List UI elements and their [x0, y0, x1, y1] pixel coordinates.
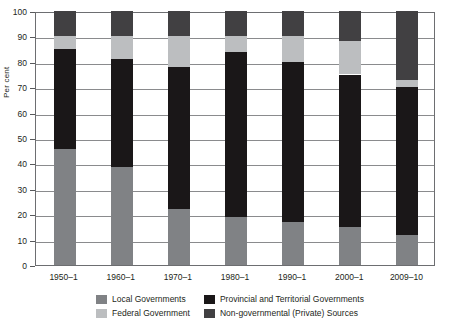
legend-swatch	[96, 309, 107, 318]
y-tick-label: 30	[1, 186, 27, 195]
legend-item[interactable]: Provincial and Territorial Governments	[204, 292, 364, 306]
y-tick-label: 20	[1, 211, 27, 220]
y-tick-label: 40	[1, 160, 27, 169]
legend-swatch	[204, 309, 215, 318]
legend-swatch	[96, 295, 107, 304]
legend-label: Local Governments	[112, 294, 186, 304]
x-tick-label: 2009–10	[371, 272, 441, 282]
legend-item[interactable]: Non-governmental (Private) Sources	[204, 306, 364, 320]
y-tick-mark	[30, 63, 35, 64]
y-tick-mark	[30, 215, 35, 216]
legend-swatch	[204, 295, 215, 304]
y-tick-label: 80	[1, 59, 27, 68]
y-tick-mark	[30, 241, 35, 242]
legend-item[interactable]: Federal Government	[96, 306, 190, 320]
legend-label: Federal Government	[112, 308, 190, 318]
y-tick-label: 60	[1, 110, 27, 119]
legend-label: Non-governmental (Private) Sources	[220, 308, 358, 318]
y-tick-mark	[30, 139, 35, 140]
y-tick-mark	[30, 190, 35, 191]
legend-label: Provincial and Territorial Governments	[220, 294, 364, 304]
stacked-bar-chart: Per cent 01020304050607080901001950–1196…	[0, 0, 450, 324]
y-tick-label: 10	[1, 237, 27, 246]
y-tick-mark	[30, 88, 35, 89]
y-tick-label: 0	[1, 262, 27, 271]
axis-layer: 01020304050607080901001950–11960–11970–1…	[0, 0, 450, 324]
y-tick-mark	[30, 164, 35, 165]
y-tick-mark	[30, 37, 35, 38]
y-tick-label: 50	[1, 135, 27, 144]
y-tick-label: 90	[1, 33, 27, 42]
legend-item[interactable]: Local Governments	[96, 292, 190, 306]
y-tick-mark	[30, 266, 35, 267]
y-tick-mark	[30, 114, 35, 115]
y-tick-label: 100	[1, 8, 27, 17]
chart-legend: Local GovernmentsProvincial and Territor…	[96, 292, 364, 320]
y-tick-label: 70	[1, 84, 27, 93]
y-tick-mark	[30, 12, 35, 13]
